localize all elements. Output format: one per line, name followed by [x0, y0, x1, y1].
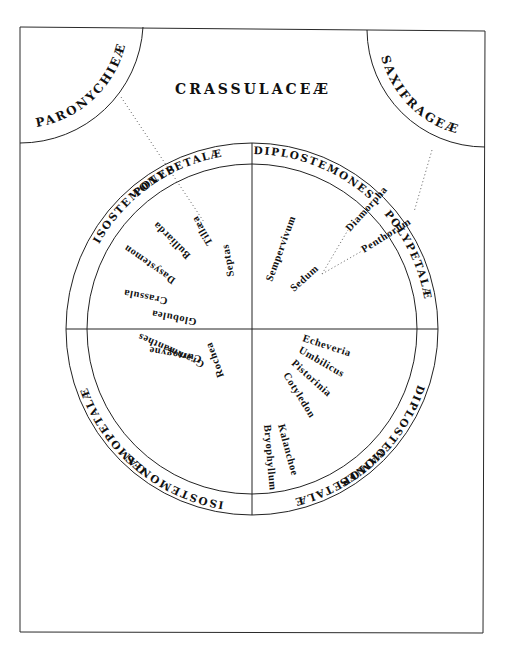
genus-sedum: Sedum: [288, 263, 321, 294]
genus-globulea: Globulea: [150, 308, 197, 328]
ring-label-isostemones-bottom: ISOSTEMONES: [122, 452, 225, 512]
family-title: CRASSULACEÆ: [175, 81, 331, 97]
saxifrageae-label: SAXIFRAGEÆ: [378, 53, 462, 136]
paronychieae-label: PARONYCHIEÆ: [34, 40, 129, 130]
genus-bulliarda: Bulliarda: [151, 220, 193, 262]
genus-tillaea: Tillæa: [189, 214, 215, 247]
genus-diamorpha: Diamorpha: [343, 184, 389, 234]
genus-rochea: Rochea: [203, 341, 226, 380]
sedum-penthorum-connector: [322, 251, 362, 274]
saxifrageae-arc: [367, 30, 485, 147]
ring-label-diplostemones-top: DIPLOSTEMONES: [253, 144, 377, 202]
genus-grammanthes: Grammanthes: [136, 331, 206, 370]
saxifrageae-connector: [414, 150, 432, 212]
genus-bryophyllum: Bryophyllum: [262, 424, 279, 491]
genus-crassula: Crassula: [122, 288, 168, 307]
crassulaceae-affinity-diagram: PARONYCHIEÆ SAXIFRAGEÆ CRASSULACEÆ POLYP…: [0, 0, 507, 649]
ring-label-gamopetalae-bottom: GAMOPETALÆ: [293, 446, 389, 509]
genus-sempervivum: Sempervivum: [264, 214, 298, 283]
genus-dasystemon: Dasystemon: [121, 243, 177, 287]
sedum-diamorpha-connector: [322, 230, 348, 274]
genus-septas: Septas: [219, 243, 236, 277]
genus-kalanchoe: Kalanchoe: [276, 423, 300, 477]
